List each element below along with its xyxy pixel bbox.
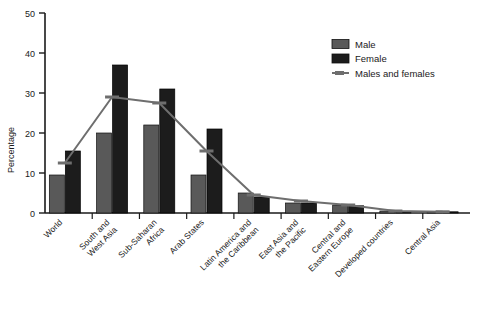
bar-female [160, 89, 175, 213]
chart-legend: MaleFemaleMales and females [332, 39, 435, 79]
bar-female [113, 65, 128, 213]
legend-label: Female [355, 53, 387, 64]
legend-label: Males and females [355, 68, 435, 79]
bar-chart-svg: Percentage 01020304050 WorldSouth andWes… [0, 0, 477, 309]
bar-female [254, 197, 269, 213]
y-tick-label: 20 [25, 129, 35, 139]
x-axis-category-label: Arab States [167, 217, 205, 255]
x-axis-category-label: Sub-SaharanAfrica [116, 217, 166, 267]
y-axis-title-text: Percentage [6, 127, 16, 173]
x-axis-category-label: South andWest Asia [77, 217, 119, 259]
x-axis-category-label: East Asia andthe Pacific [257, 217, 309, 269]
bar-male [144, 125, 159, 213]
bar-male [97, 133, 112, 213]
x-axis-category-labels: WorldSouth andWest AsiaSub-SaharanAfrica… [42, 217, 443, 280]
y-tick-label: 0 [30, 209, 35, 219]
y-axis-title: Percentage [6, 127, 16, 173]
x-axis-category-label-line: Arab States [167, 217, 205, 255]
bar-male [285, 203, 300, 213]
x-axis-category-label-line: World [42, 217, 65, 240]
legend-swatch [332, 40, 349, 49]
bar-male [191, 175, 206, 213]
y-tick-label: 40 [25, 49, 35, 59]
bar-male [49, 175, 64, 213]
legend-label: Male [355, 39, 376, 50]
y-axis-ticks: 01020304050 [25, 9, 45, 219]
chart-container: Percentage 01020304050 WorldSouth andWes… [0, 0, 477, 309]
y-tick-label: 30 [25, 89, 35, 99]
y-tick-label: 10 [25, 169, 35, 179]
x-axis-category-label: Latin America andthe Caribbean [198, 217, 261, 280]
bar-female [207, 129, 222, 213]
legend-item: Male [332, 39, 376, 50]
legend-swatch [332, 54, 349, 63]
x-axis-ticks [92, 213, 423, 219]
x-axis-category-label-line: Central Asia [403, 217, 443, 257]
x-axis-category-label: Central Asia [403, 217, 443, 257]
legend-item: Males and females [332, 68, 435, 79]
bars-group [49, 65, 458, 213]
y-tick-label: 50 [25, 9, 35, 19]
legend-item: Female [332, 53, 387, 64]
bar-female [301, 203, 316, 213]
x-axis-category-label: World [42, 217, 65, 240]
